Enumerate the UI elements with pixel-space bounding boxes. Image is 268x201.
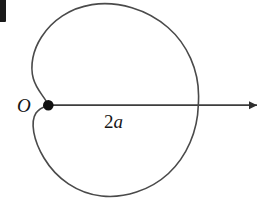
- origin-label: O: [17, 95, 31, 116]
- diameter-label-number: 2: [104, 111, 114, 132]
- cardioid-curve-group: [32, 4, 199, 197]
- origin-point-dot: [43, 100, 54, 111]
- cardioid-figure: O 2a: [0, 0, 268, 201]
- diameter-label-variable: a: [114, 111, 124, 132]
- origin-point-group: [43, 100, 54, 111]
- diameter-label: 2a: [104, 111, 123, 132]
- cardioid-path: [32, 4, 199, 197]
